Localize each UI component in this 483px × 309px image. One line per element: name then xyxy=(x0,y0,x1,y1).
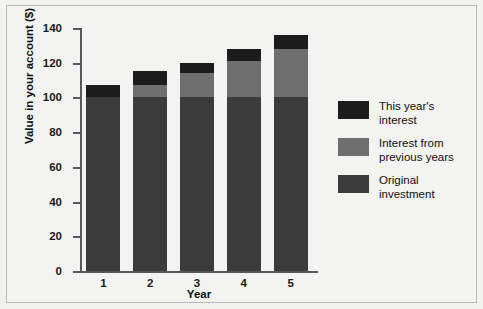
bar-stack xyxy=(133,71,167,271)
y-axis-tick: 20 xyxy=(73,236,80,238)
y-axis-tick-label: 80 xyxy=(49,126,62,138)
bar-segment xyxy=(274,97,308,271)
chart-legend: This year'sinterestInterest fromprevious… xyxy=(338,100,474,211)
bar-segment xyxy=(227,61,261,97)
legend-item: This year'sinterest xyxy=(338,100,474,127)
y-axis-tick-label: 60 xyxy=(49,161,62,173)
bar-segment xyxy=(227,97,261,271)
bar-segment xyxy=(227,49,261,61)
bar-segment xyxy=(180,73,214,97)
legend-label: Originalinvestment xyxy=(379,174,435,201)
y-axis-tick: 120 xyxy=(73,63,80,65)
y-axis-tick: 60 xyxy=(73,167,80,169)
y-axis-tick-label: 0 xyxy=(56,265,62,277)
bar-segment xyxy=(133,85,167,97)
y-axis-tick: 80 xyxy=(73,132,80,134)
bar-segment xyxy=(133,71,167,85)
bar-stack xyxy=(180,63,214,271)
y-axis-tick: 40 xyxy=(73,202,80,204)
bar-segment xyxy=(86,97,120,271)
y-axis-tick-label: 120 xyxy=(43,56,62,68)
bar-stack xyxy=(274,35,308,271)
legend-label: Interest fromprevious years xyxy=(379,137,454,164)
plot-area: 02040608010012014012345 xyxy=(80,28,314,271)
bar-segment xyxy=(86,85,120,97)
legend-label: This year'sinterest xyxy=(379,100,434,127)
y-axis-tick: 140 xyxy=(73,28,80,30)
legend-swatch xyxy=(338,175,369,193)
bar-segment xyxy=(133,97,167,271)
legend-swatch xyxy=(338,101,369,119)
y-axis-title: Value in your account ($) xyxy=(23,0,35,161)
legend-swatch xyxy=(338,138,369,156)
y-axis-tick-label: 140 xyxy=(43,22,62,34)
x-axis-title: Year xyxy=(80,288,318,300)
y-axis-tick-label: 40 xyxy=(49,195,62,207)
legend-item: Originalinvestment xyxy=(338,174,474,201)
y-axis-tick-label: 20 xyxy=(49,230,62,242)
y-axis-tick: 100 xyxy=(73,97,80,99)
bar-stack xyxy=(86,85,120,271)
bar-segment xyxy=(180,97,214,271)
bar-segment xyxy=(274,35,308,49)
bar-segment xyxy=(180,63,214,73)
y-axis-tick: 0 xyxy=(73,271,80,273)
x-axis-line xyxy=(80,271,318,273)
y-axis-tick-label: 100 xyxy=(43,91,62,103)
chart-figure: 02040608010012014012345 Value in your ac… xyxy=(0,0,483,309)
bar-stack xyxy=(227,49,261,271)
legend-item: Interest fromprevious years xyxy=(338,137,474,164)
bar-segment xyxy=(274,49,308,98)
